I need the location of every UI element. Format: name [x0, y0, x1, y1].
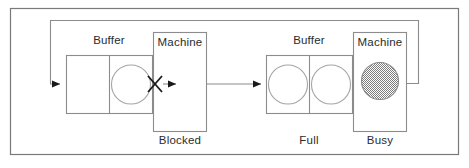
right-buffer-box: [267, 56, 353, 114]
label-state-busy: Busy: [367, 134, 393, 146]
label-buffer-right: Buffer: [293, 34, 325, 46]
label-machine-right: Machine: [358, 36, 403, 48]
left-buffer-box: [67, 56, 153, 114]
label-state-blocked: Blocked: [159, 134, 201, 146]
label-state-full: Full: [299, 134, 318, 146]
flow-diagram: [0, 0, 469, 168]
right-buffer-part-1: [269, 65, 308, 104]
left-buffer-part-2: [112, 65, 151, 104]
busy-part-hatched: [362, 63, 399, 100]
right-buffer-part-2: [312, 65, 351, 104]
label-machine-left: Machine: [158, 36, 203, 48]
label-buffer-left: Buffer: [93, 34, 125, 46]
diagram-canvas: Buffer Machine Blocked Buffer Machine Fu…: [0, 0, 469, 168]
